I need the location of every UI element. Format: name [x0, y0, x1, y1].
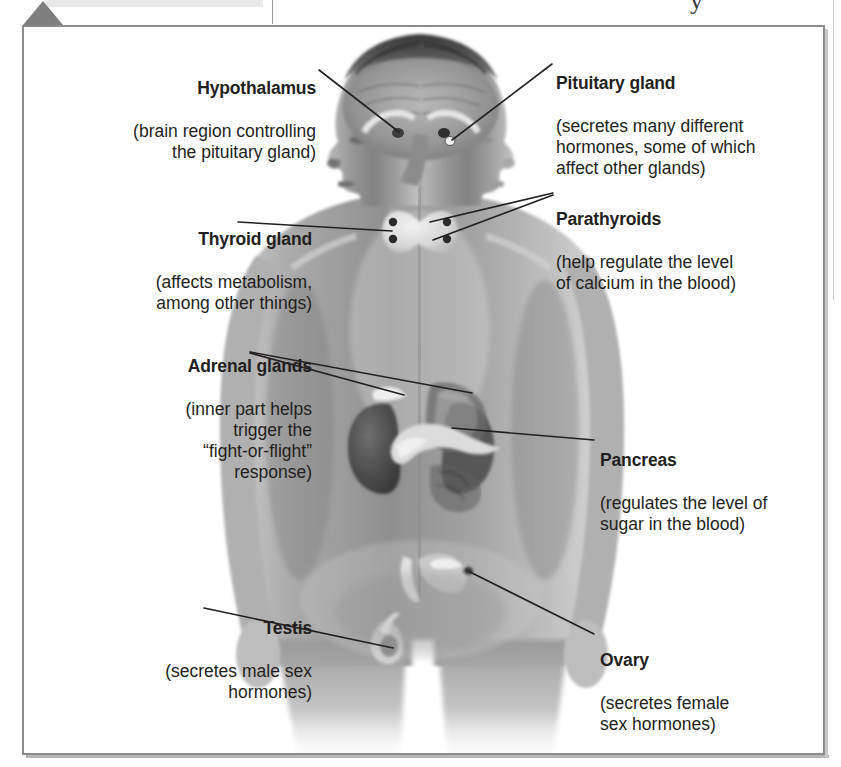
label-pancreas-title: Pancreas	[600, 450, 828, 471]
label-adrenal-title: Adrenal glands	[48, 356, 312, 377]
label-thyroid-title: Thyroid gland	[20, 229, 312, 250]
label-ovary: Ovary (secretes female sex hormones)	[600, 629, 828, 756]
label-ovary-desc: (secretes female sex hormones)	[600, 693, 828, 735]
label-hypothalamus: Hypothalamus (brain region controlling t…	[28, 57, 316, 184]
label-hypothalamus-desc: (brain region controlling the pituitary …	[28, 121, 316, 163]
label-parathyroids-title: Parathyroids	[556, 209, 824, 230]
page-column-rule	[272, 0, 273, 24]
label-thyroid-gland: Thyroid gland (affects metabolism, among…	[20, 208, 312, 335]
label-testis-title: Testis	[68, 618, 312, 639]
page-top-rule	[45, 0, 263, 7]
label-pancreas: Pancreas (regulates the level of sugar i…	[600, 429, 828, 556]
cropped-glyph: y	[690, 0, 703, 16]
label-testis: Testis (secretes male sex hormones)	[68, 597, 312, 724]
label-pituitary: Pituitary gland (secretes many different…	[556, 52, 824, 200]
label-parathyroids: Parathyroids (help regulate the level of…	[556, 188, 824, 315]
page-column-rule-right	[833, 0, 834, 300]
label-pituitary-desc: (secretes many different hormones, some …	[556, 116, 824, 180]
label-testis-desc: (secretes male sex hormones)	[68, 661, 312, 703]
triangle-marker-icon	[23, 1, 63, 25]
label-pancreas-desc: (regulates the level of sugar in the blo…	[600, 493, 828, 535]
label-hypothalamus-title: Hypothalamus	[28, 78, 316, 99]
label-adrenal-desc: (inner part helps trigger the “fight-or-…	[48, 399, 312, 484]
label-thyroid-desc: (affects metabolism, among other things)	[20, 272, 312, 314]
label-ovary-title: Ovary	[600, 650, 828, 671]
label-adrenal-glands: Adrenal glands (inner part helps trigger…	[48, 335, 312, 504]
label-pituitary-title: Pituitary gland	[556, 73, 824, 94]
label-parathyroids-desc: (help regulate the level of calcium in t…	[556, 252, 824, 294]
